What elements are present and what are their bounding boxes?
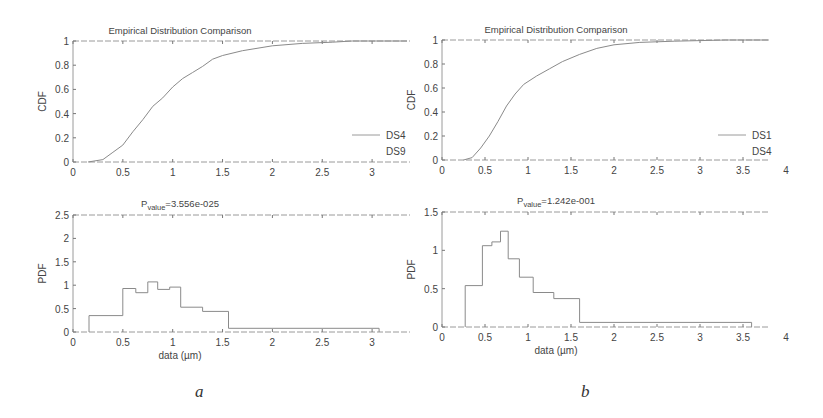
y-axis-label: PDF [37,264,48,284]
x-tick-label: 3 [697,165,703,176]
y-tick-label: 0.8 [424,59,438,70]
chart-b-pdf: 00.511.522.533.5400.511.5PDFPvalue=1.242… [406,195,789,356]
x-tick-label: 3 [369,167,375,178]
x-tick-label: 2 [611,165,617,176]
x-tick-label: 1 [170,337,176,348]
y-axis-label: PDF [406,260,417,280]
panel-label-a: a [195,382,204,402]
chart-a-cdf: 00.511.522.5300.20.40.60.81CDFEmpirical … [37,25,410,178]
cdf-line [88,41,407,162]
y-tick-label: 0.5 [55,304,69,315]
chart-a-pdf: 00.511.522.5300.511.522.5PDFPvalue=3.556… [37,198,410,361]
figure: 00.511.522.5300.20.40.60.81CDFEmpirical … [0,0,823,418]
x-tick-label: 4 [783,165,789,176]
y-tick-label: 0 [432,155,438,166]
x-tick-label: 2 [611,332,617,343]
y-tick-label: 0.2 [424,131,438,142]
x-tick-label: 1 [525,165,531,176]
y-tick-label: 1 [63,36,69,47]
y-tick-label: 1 [432,35,438,46]
legend-entry: DS4 [386,130,406,141]
x-axis-label: data (µm) [535,345,578,356]
legend-entry: DS4 [752,146,772,157]
x-tick-label: 1.5 [216,167,230,178]
x-tick-label: 3.5 [736,165,750,176]
chart-title: Pvalue=3.556e-025 [141,198,219,212]
x-tick-label: 3 [697,332,703,343]
y-tick-label: 1.5 [55,257,69,268]
chart-title: Pvalue=1.242e-001 [517,195,595,209]
panel-label-b: b [581,382,590,402]
x-tick-label: 1.5 [564,332,578,343]
cdf-line [464,40,769,160]
y-tick-label: 0.4 [55,109,69,120]
x-tick-label: 0 [70,337,76,348]
x-tick-label: 2.5 [650,165,664,176]
legend-entry: DS9 [386,146,406,157]
x-tick-label: 2.5 [650,332,664,343]
y-tick-label: 0.4 [424,107,438,118]
y-tick-label: 2 [63,233,69,244]
x-tick-label: 1 [525,332,531,343]
x-tick-label: 3 [369,337,375,348]
x-tick-label: 4 [783,332,789,343]
y-axis-label: CDF [406,90,417,111]
y-axis-label: CDF [37,91,48,112]
y-tick-label: 0.2 [55,133,69,144]
legend-entry: DS1 [752,130,772,141]
y-tick-label: 0.6 [55,84,69,95]
pdf-histogram [89,282,379,332]
x-tick-label: 2 [270,167,276,178]
y-tick-label: 0.8 [55,60,69,71]
chart-title: Empirical Distribution Comparison [108,25,251,36]
y-tick-label: 0 [63,157,69,168]
x-axis-label: data (µm) [159,350,202,361]
y-tick-label: 0 [432,322,438,333]
y-tick-label: 0 [63,327,69,338]
x-tick-label: 2 [270,337,276,348]
x-tick-label: 0.5 [116,167,130,178]
y-tick-label: 1 [63,280,69,291]
x-tick-label: 0 [439,332,445,343]
x-tick-label: 1.5 [216,337,230,348]
x-tick-label: 2.5 [315,167,329,178]
x-tick-label: 3.5 [736,332,750,343]
x-tick-label: 0.5 [116,337,130,348]
x-tick-label: 2.5 [315,337,329,348]
y-tick-label: 2.5 [55,210,69,221]
y-tick-label: 1.5 [424,207,438,218]
y-tick-label: 0.6 [424,83,438,94]
chart-b-cdf: 00.511.522.533.5400.20.40.60.81CDFEmpiri… [406,24,789,176]
chart-title: Empirical Distribution Comparison [484,24,627,35]
x-tick-label: 0.5 [478,165,492,176]
x-tick-label: 0.5 [478,332,492,343]
x-tick-label: 0 [439,165,445,176]
y-tick-label: 1 [432,245,438,256]
pdf-histogram [465,231,751,327]
x-tick-label: 0 [70,167,76,178]
x-tick-label: 1.5 [564,165,578,176]
y-tick-label: 0.5 [424,284,438,295]
x-tick-label: 1 [170,167,176,178]
